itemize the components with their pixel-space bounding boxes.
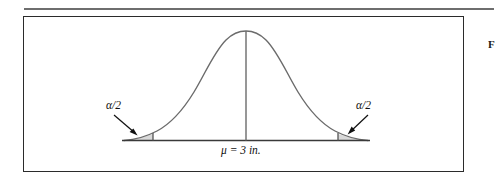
alpha-over-two-label-left: α/2 bbox=[106, 100, 121, 112]
alpha-over-two-label-right: α/2 bbox=[356, 100, 371, 112]
mean-label: μ = 3 in. bbox=[221, 145, 261, 157]
figure-caption-partial: F bbox=[488, 38, 495, 50]
page-top-rule bbox=[24, 8, 494, 10]
